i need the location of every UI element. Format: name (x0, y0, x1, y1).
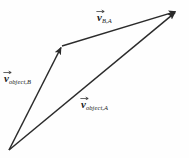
vector-diagram-figure: v B,A v object,B v object,A (0, 0, 189, 158)
vector-arrow-icon (80, 96, 89, 100)
vector-arrow-icon (3, 70, 12, 74)
label-v-object-a: v object,A (81, 95, 108, 112)
vector-b-a-shaft (62, 12, 176, 46)
label-object-b-subscript: object,B (9, 78, 31, 85)
vector-symbol-v: v (81, 99, 86, 110)
label-v-object-b: v object,B (4, 69, 31, 86)
label-ba-subscript: B,A (102, 17, 112, 24)
label-object-a-subscript: object,A (86, 104, 108, 111)
vector-symbol-v: v (97, 12, 102, 23)
label-v-b-a: v B,A (97, 8, 112, 25)
vector-arrow-icon (96, 9, 105, 13)
vector-object-b-shaft (9, 48, 61, 151)
vector-symbol-v: v (4, 73, 9, 84)
vector-object-a-shaft (9, 13, 175, 150)
